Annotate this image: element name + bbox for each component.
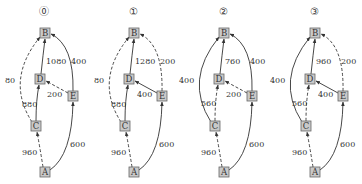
node-e: E xyxy=(68,91,78,101)
edge-label-e-d: 200 xyxy=(226,90,241,99)
node-e: E xyxy=(247,91,257,101)
edge-a-c xyxy=(37,132,43,167)
edge-d-b xyxy=(130,39,134,74)
edge-label-e-b: 400 xyxy=(250,57,265,66)
node-a: A xyxy=(219,167,229,177)
edge-label-a-c: 960 xyxy=(111,148,126,157)
svg-text:E: E xyxy=(159,91,165,101)
edge-label-c-b: 400 xyxy=(270,76,285,85)
node-d: D xyxy=(305,74,315,84)
edge-a-c xyxy=(307,132,313,167)
svg-text:A: A xyxy=(41,167,49,177)
edge-label-e-b: 200 xyxy=(341,57,356,66)
svg-text:E: E xyxy=(340,91,346,101)
svg-text:D: D xyxy=(37,74,44,84)
svg-text:D: D xyxy=(216,74,223,84)
edge-label-a-e: 600 xyxy=(340,140,355,149)
edge-d-b xyxy=(311,39,315,74)
svg-text:B: B xyxy=(131,28,137,38)
svg-text:B: B xyxy=(42,28,48,38)
edge-label-c-b: 80 xyxy=(5,76,15,85)
diagram-canvas: ⓪ 960 80 880 1080 200 600 400 B D E C A … xyxy=(0,0,362,184)
edge-label-e-d: 200 xyxy=(47,90,62,99)
svg-text:C: C xyxy=(33,121,40,131)
node-c: C xyxy=(210,121,220,131)
svg-text:D: D xyxy=(126,74,133,84)
svg-text:C: C xyxy=(303,121,310,131)
node-c: C xyxy=(301,121,311,131)
svg-text:B: B xyxy=(312,28,318,38)
svg-text:C: C xyxy=(122,121,129,131)
svg-text:E: E xyxy=(249,91,255,101)
edge-label-e-b: 400 xyxy=(71,57,86,66)
svg-text:C: C xyxy=(212,121,219,131)
edge-label-c-b: 400 xyxy=(179,76,194,85)
svg-text:B: B xyxy=(221,28,227,38)
edge-label-d-b: 1080 xyxy=(46,57,66,66)
node-e: E xyxy=(157,91,167,101)
node-b: B xyxy=(310,28,320,38)
node-b: B xyxy=(129,28,139,38)
svg-text:A: A xyxy=(130,167,138,177)
node-d: D xyxy=(214,74,224,84)
edge-label-c-d: 880 xyxy=(111,100,126,109)
node-a: A xyxy=(310,167,320,177)
edge-label-a-e: 600 xyxy=(159,140,174,149)
diagram-1: ① 960 80 880 1280 400 600 200 B D E C A xyxy=(94,6,175,177)
edge-label-a-c: 960 xyxy=(201,148,216,157)
node-b: B xyxy=(40,28,50,38)
node-c: C xyxy=(31,121,41,131)
svg-text:D: D xyxy=(307,74,314,84)
edge-label-a-c: 960 xyxy=(292,148,307,157)
diagram-title: ⓪ xyxy=(39,6,49,17)
svg-text:E: E xyxy=(70,91,76,101)
node-d: D xyxy=(35,74,45,84)
edge-d-b xyxy=(41,39,45,74)
edge-label-d-b: 1280 xyxy=(135,57,155,66)
edge-d-b xyxy=(220,39,224,74)
edge-a-e xyxy=(320,102,343,170)
edge-a-e xyxy=(139,102,162,170)
edge-a-e xyxy=(50,102,73,170)
edge-label-e-d: 400 xyxy=(137,90,152,99)
edge-a-c xyxy=(216,132,222,167)
edge-label-a-c: 960 xyxy=(22,148,37,157)
diagram-title: ② xyxy=(219,6,228,17)
diagram-title: ① xyxy=(129,6,138,17)
edge-label-a-e: 600 xyxy=(249,140,264,149)
diagram-3: ③ 960 400 560 960 400 600 200 B D E C A xyxy=(270,6,356,177)
svg-text:A: A xyxy=(220,167,228,177)
edge-label-c-b: 80 xyxy=(94,76,104,85)
edge-label-d-b: 760 xyxy=(225,57,240,66)
node-b: B xyxy=(219,28,229,38)
diagram-title: ③ xyxy=(310,6,319,17)
edge-label-a-e: 600 xyxy=(70,140,85,149)
edge-label-c-d: 560 xyxy=(292,99,307,108)
node-d: D xyxy=(124,74,134,84)
edge-label-e-d: 400 xyxy=(318,90,333,99)
diagram-2: ② 960 400 560 760 200 600 400 B D E C A xyxy=(179,6,265,177)
node-a: A xyxy=(40,167,50,177)
edge-label-e-b: 200 xyxy=(160,57,175,66)
node-e: E xyxy=(338,91,348,101)
edge-label-c-d: 560 xyxy=(201,99,216,108)
svg-text:A: A xyxy=(311,167,319,177)
edge-a-c xyxy=(126,132,132,167)
node-a: A xyxy=(129,167,139,177)
node-c: C xyxy=(120,121,130,131)
diagram-0: ⓪ 960 80 880 1080 200 600 400 B D E C A xyxy=(5,6,86,177)
edge-label-d-b: 960 xyxy=(316,57,331,66)
edge-label-c-d: 880 xyxy=(22,100,37,109)
edge-a-e xyxy=(229,102,252,170)
